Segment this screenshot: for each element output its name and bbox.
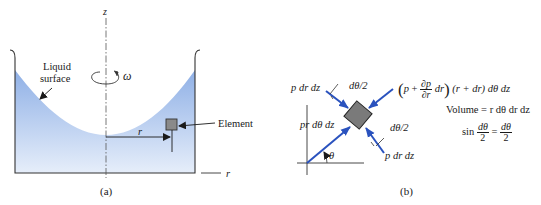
diagram-canvas (0, 0, 541, 205)
partial-derivative: ∂p∂r (420, 79, 432, 100)
force-upper-left-label: p dr dz (291, 82, 320, 94)
outer-force-label: (p + ∂p∂r dr) (r + dr) dθ dz (398, 79, 510, 100)
theta-label: θ (329, 150, 334, 162)
angle-lower-label: dθ/2 (390, 122, 409, 134)
caption-b: (b) (400, 185, 413, 197)
force-radial-inner-label: pr dθ dz (300, 119, 334, 131)
force-lower-right-label: p dr dz (385, 150, 414, 162)
radius-label: r (138, 126, 142, 138)
caption-a: (a) (100, 185, 112, 197)
fluid-element-b (344, 101, 372, 129)
liquid-surface-label-line2: surface (40, 73, 70, 85)
fluid-element-a (166, 119, 177, 130)
z-axis-label: z (103, 6, 107, 18)
outer-radial-force-arrow (369, 89, 393, 108)
rotation-icon (92, 71, 119, 84)
angle-upper-label: dθ/2 (349, 80, 368, 92)
upper-left-force-arrow (326, 91, 348, 108)
liquid-surface-label-line1: Liquid (43, 61, 71, 73)
liquid-surface-pointer (40, 88, 52, 99)
omega-label: ω (123, 70, 131, 82)
sin-equation: sin dθ2 = dθ2 (462, 122, 512, 143)
r-axis-label: r (226, 168, 230, 180)
volume-equation: Volume = r dθ dr dz (446, 104, 530, 116)
element-label: Element (218, 118, 253, 130)
theta-arc (324, 152, 327, 163)
